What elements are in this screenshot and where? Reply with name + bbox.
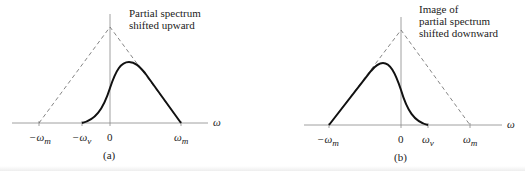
panel-a-tick-zero: 0 (107, 131, 113, 143)
panel-b-tick-omega-v: ωv (422, 133, 434, 148)
panel-b-annotation: Image of partial spectrum shifted downwa… (419, 3, 498, 39)
panel-b-image-spectrum-curve (329, 63, 428, 125)
panel-b-tick-zero: 0 (398, 133, 404, 145)
panel-a-annotation: Partial spectrum shifted upward (129, 7, 201, 31)
cropped-caption-strip (0, 166, 525, 171)
panel-a-tick-omega-m: ωm (174, 131, 188, 146)
panel-b-omega-axis-label: ω (507, 118, 515, 130)
panel-a-partial-spectrum-curve (82, 62, 181, 123)
panel-b-caption: (b) (394, 151, 407, 163)
panel-a-tick-neg-omega-m: −ωm (29, 131, 51, 146)
panel-a-tick-neg-omega-v: −ωv (72, 131, 91, 146)
panel-b-full-spectrum-dashed (329, 30, 470, 125)
panel-b-tick-omega-m: ωm (463, 133, 477, 148)
panel-a-omega-axis-label: ω (213, 116, 221, 128)
panel-a-caption: (a) (103, 149, 115, 161)
panel-b-tick-neg-omega-m: −ωm (317, 133, 339, 148)
